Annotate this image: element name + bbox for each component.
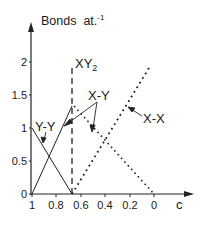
y-tick-label-0: 0 xyxy=(3,189,27,200)
x-axis-arrow-icon xyxy=(184,191,194,197)
y-axis-title-sup: -1 xyxy=(97,13,104,22)
y-tick-label-2: 2 xyxy=(3,57,27,68)
x-tick-label-1: 1 xyxy=(20,200,44,211)
y-axis-arrow-icon xyxy=(28,22,34,32)
x-tick-label-0.4: 0.4 xyxy=(93,200,117,211)
y-tick-label-1.5: 1.5 xyxy=(3,90,27,101)
y-axis-title: Bonds at.-1 xyxy=(41,12,104,27)
series-yy-line xyxy=(32,128,72,194)
x-tick-label-0.6: 0.6 xyxy=(69,200,93,211)
y-axis-title-text: Bonds at. xyxy=(41,14,97,28)
annotation-xx: X-X xyxy=(143,113,165,125)
x-tick-label-0.8: 0.8 xyxy=(44,200,68,211)
series-xx-dotted-line xyxy=(72,68,149,194)
x-axis-title: c xyxy=(176,199,183,211)
annotation-yy: Y-Y xyxy=(35,121,55,133)
annotation-xy: X-Y xyxy=(88,90,110,102)
series-xy-dotted-line xyxy=(74,106,154,194)
x-tick-label-0.2: 0.2 xyxy=(118,200,142,211)
y-tick-label-1: 1 xyxy=(3,123,27,134)
x-tick-label-0: 0 xyxy=(142,200,166,211)
annotation-arrows xyxy=(41,102,142,143)
y-tick-label-0.5: 0.5 xyxy=(3,156,27,167)
annotation-xy2: XY2 xyxy=(75,58,97,74)
